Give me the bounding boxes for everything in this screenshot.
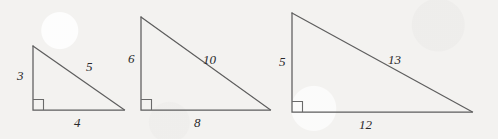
triangle-2-horizontal-label: 8 [194, 116, 201, 129]
triangle-3 [292, 13, 473, 112]
triangle-1-vertical-label: 3 [17, 69, 24, 82]
triangle-1-hypotenuse [33, 46, 125, 110]
triangle-1-right-angle-icon [33, 100, 44, 111]
triangle-2-right-angle-icon [141, 100, 152, 111]
triangle-3-vertical-label: 5 [279, 55, 286, 68]
triangle-1 [33, 46, 125, 110]
triangle-3-right-angle-icon [292, 102, 303, 113]
triangle-3-hypotenuse [292, 13, 473, 112]
triangle-2-vertical-label: 6 [128, 52, 135, 65]
triangle-1-horizontal-label: 4 [74, 116, 81, 129]
triangle-2-hypotenuse-label: 10 [203, 53, 216, 66]
triangle-3-hypotenuse-label: 13 [388, 53, 401, 66]
triangle-1-hypotenuse-label: 5 [86, 60, 93, 73]
triangle-3-horizontal-label: 12 [359, 118, 372, 131]
triangles-figure: 3 5 4 6 10 8 5 13 12 [0, 0, 498, 139]
